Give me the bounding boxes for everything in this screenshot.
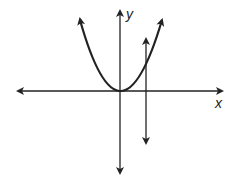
y-axis-label: y [125, 6, 134, 22]
parabola [80, 20, 162, 91]
graph: y x [0, 0, 239, 179]
x-axis-label: x [214, 95, 223, 111]
parabola-left-arrow [80, 19, 81, 24]
